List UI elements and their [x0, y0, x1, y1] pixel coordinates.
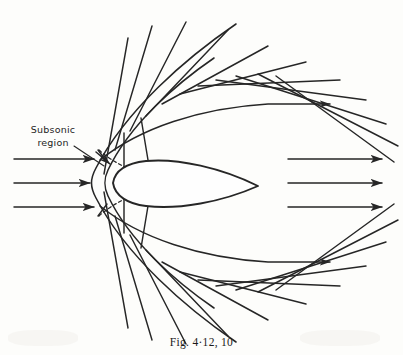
- subsonic-region-label-line2: region: [37, 137, 68, 148]
- subsonic-label-leader: [74, 146, 104, 166]
- subsonic-region-label-line1: Subsonic: [31, 124, 75, 135]
- figure-caption: Fig. 4·12, 10: [0, 336, 403, 348]
- figure-root: Subsonic region Fig. 4·12, 10: [0, 0, 403, 355]
- body-outline: [113, 160, 258, 207]
- freestream-arrows: [14, 159, 94, 207]
- downstream-arrows: [288, 159, 382, 207]
- flow-field-diagram: Subsonic region: [0, 0, 403, 355]
